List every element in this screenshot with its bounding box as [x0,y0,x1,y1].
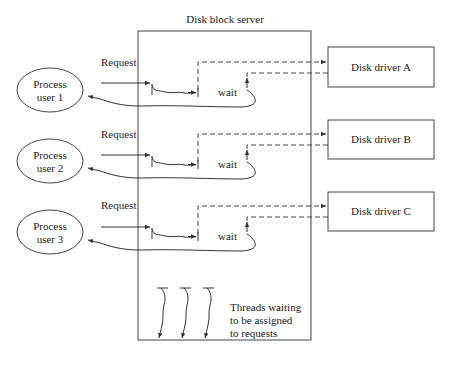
diagram-canvas: Disk block server Process user 1 Request… [0,0,451,371]
process-1-label-line2: user 1 [37,91,64,103]
process-2-label-line1: Process [33,149,67,161]
thread-pool-caption-line3: to requests [230,327,277,339]
idle-thread-2 [180,288,191,338]
wait-label-2: wait [218,158,237,170]
disk-driver-a: Disk driver A [328,47,434,87]
wait-label-1: wait [218,86,237,98]
thread-pool-caption-line1: Threads waiting [230,301,302,313]
thread-pool-caption-line2: to be assigned [230,314,293,326]
disk-driver-c: Disk driver C [328,192,434,231]
driver-reply-2 [247,145,328,155]
process-user-1-node [17,68,83,112]
server-title: Disk block server [186,13,264,25]
process-group-1: Process user 1 Request wait [17,56,328,112]
thread-path-3 [152,228,196,239]
thread-path-2 [152,156,196,167]
process-3-label-line2: user 3 [37,233,64,245]
process-user-3-node [17,210,83,254]
process-1-label-line1: Process [33,78,67,90]
thread-path-1 [152,84,196,95]
request-label-2: Request [101,128,136,140]
disk-driver-a-label: Disk driver A [351,61,411,73]
process-group-2: Process user 2 Request wait [17,128,328,183]
process-group-3: Process user 3 Request wait [17,199,328,254]
process-user-2-node [17,139,83,183]
disk-driver-c-label: Disk driver C [351,205,411,217]
thread-pool: Threads waiting to be assigned to reques… [157,288,302,339]
request-label-1: Request [101,56,136,68]
process-3-label-line1: Process [33,220,67,232]
driver-reply-1 [247,73,328,83]
idle-thread-3 [203,288,214,338]
idle-thread-1 [157,288,168,338]
disk-driver-b-label: Disk driver B [351,133,411,145]
process-2-label-line2: user 2 [37,162,64,174]
driver-reply-3 [247,217,328,227]
request-label-3: Request [101,199,136,211]
wait-label-3: wait [218,230,237,242]
disk-driver-b: Disk driver B [328,120,434,159]
